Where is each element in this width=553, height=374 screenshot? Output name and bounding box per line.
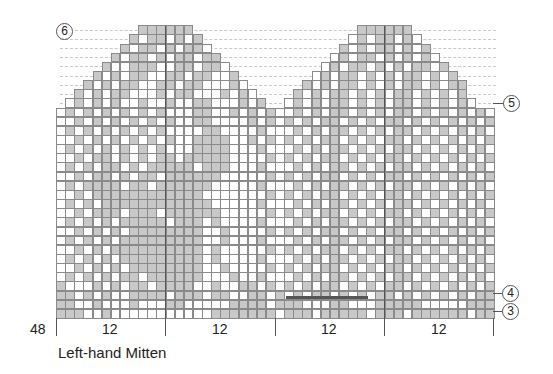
section-label-2: 12 — [212, 321, 228, 337]
section-tick-0 — [56, 318, 57, 336]
row-marker-6: 6 — [56, 23, 73, 40]
section-tick-1 — [165, 26, 166, 336]
chart-caption: Left-hand Mitten — [58, 344, 166, 361]
section-tick-2 — [275, 318, 276, 336]
section-label-1: 12 — [102, 321, 118, 337]
section-tick-3 — [384, 26, 385, 336]
row-marker-3: 3 — [502, 303, 519, 320]
row-marker-5: 5 — [503, 95, 520, 112]
section-label-3: 12 — [321, 321, 337, 337]
stitch-total-label: 48 — [30, 321, 46, 337]
section-label-4: 12 — [431, 321, 447, 337]
pattern-divider-bar — [286, 296, 368, 299]
knitting-chart: 6 5 4 3 48 12 12 12 12 Left-hand Mitten — [0, 0, 553, 374]
shaping-guide-line — [60, 39, 496, 40]
row-marker-4: 4 — [502, 285, 519, 302]
shaping-guide-line — [60, 30, 496, 31]
section-tick-4 — [493, 318, 494, 336]
